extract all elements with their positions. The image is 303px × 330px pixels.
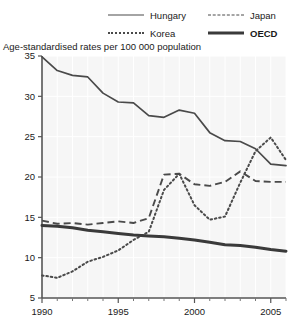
chart-svg: 5101520253035 1990199520002005 <box>0 52 303 330</box>
legend-label-japan: Japan <box>250 10 276 21</box>
svg-text:10: 10 <box>24 252 35 263</box>
svg-text:5: 5 <box>30 292 35 303</box>
chart-figure: Hungary Korea Japan OECD Age-standardise… <box>0 0 303 330</box>
legend-item-hungary: Hungary <box>108 8 186 22</box>
svg-text:20: 20 <box>24 171 35 182</box>
legend-item-japan: Japan <box>208 8 276 22</box>
chart-plot-area: 5101520253035 1990199520002005 <box>0 52 303 330</box>
svg-text:25: 25 <box>24 131 35 142</box>
svg-text:30: 30 <box>24 91 35 102</box>
svg-text:15: 15 <box>24 212 35 223</box>
svg-text:1995: 1995 <box>108 306 129 317</box>
legend-swatch-dashed-icon <box>208 9 244 21</box>
svg-text:2005: 2005 <box>260 306 281 317</box>
legend-swatch-thick-icon <box>208 27 244 39</box>
chart-legend: Hungary Korea Japan OECD <box>108 8 298 40</box>
legend-swatch-solid-icon <box>108 9 144 21</box>
svg-text:35: 35 <box>24 52 35 61</box>
legend-item-korea: Korea <box>108 26 175 40</box>
svg-text:2000: 2000 <box>184 306 205 317</box>
legend-item-oecd: OECD <box>208 26 277 40</box>
legend-label-oecd: OECD <box>250 28 277 39</box>
legend-label-korea: Korea <box>150 28 175 39</box>
legend-swatch-dotted-icon <box>108 27 144 39</box>
x-axis-tick-labels: 1990199520002005 <box>31 306 281 317</box>
legend-label-hungary: Hungary <box>150 10 186 21</box>
svg-text:1990: 1990 <box>31 306 52 317</box>
y-axis-tick-labels: 5101520253035 <box>24 52 35 303</box>
